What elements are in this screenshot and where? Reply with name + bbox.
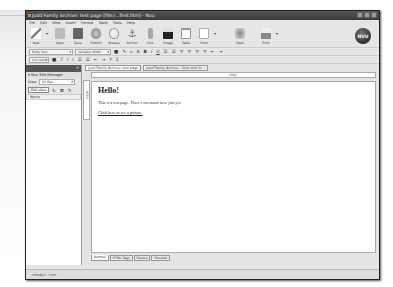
style2-icon[interactable]: I	[71, 57, 74, 62]
browse-button[interactable]: Browse	[106, 26, 122, 47]
style-icon[interactable]: I	[66, 57, 69, 62]
text-color-icon[interactable]: ■	[113, 49, 119, 54]
italic-button[interactable]: I	[150, 49, 153, 54]
anchor-icon: ⚓	[127, 28, 137, 39]
tab-normal[interactable]: Normal	[91, 255, 109, 261]
spell-button[interactable]: Spell	[232, 26, 248, 47]
refresh-icon[interactable]: ↻	[51, 88, 57, 93]
smaller-text-button[interactable]: A	[129, 50, 133, 54]
table-button[interactable]: Table	[178, 26, 194, 47]
close-button[interactable]	[371, 12, 377, 18]
indent-button[interactable]: ⇥	[218, 49, 224, 54]
view-select[interactable]: All files	[39, 79, 75, 85]
image-button[interactable]: Image	[160, 26, 176, 47]
bold-button[interactable]: B	[143, 49, 148, 54]
main-area: ✕ ▾ Nvu Site Manager View: All files Edi…	[26, 65, 379, 265]
format-icon[interactable]: Σ	[115, 57, 120, 62]
maximize-button[interactable]	[364, 12, 370, 18]
list2-icon[interactable]: ☰	[85, 57, 91, 62]
tab-gran[interactable]: Judd Family Archive - Gran and Gr...	[143, 65, 208, 71]
align-center-button[interactable]: ≡	[186, 49, 192, 54]
tab-test-page[interactable]: Judd Family Archive: test page	[85, 65, 141, 71]
open-button[interactable]: Open	[52, 26, 68, 47]
nvu-logo: NVU	[355, 28, 371, 44]
address-field[interactable]: http:	[91, 72, 376, 78]
site-manager-panel: ✕ ▾ Nvu Site Manager View: All files Edi…	[26, 65, 82, 265]
filter-icon[interactable]: Y	[108, 57, 113, 62]
main-toolbar: New ▾ Open Save Publish Browse ⚓Anchor L…	[26, 26, 379, 48]
view-row: View: All files	[26, 78, 81, 86]
format-toolbar-2: (no class) ■ T I I ☰ ☰ ⇤ ⇥ Y Σ	[26, 56, 379, 64]
underline-button[interactable]: U	[155, 49, 160, 54]
justify-button[interactable]: ≡	[202, 49, 208, 54]
body-tag-ruler: BODY	[83, 80, 90, 120]
site-actions-row: Edit sites ↻ ⊠ ✎	[26, 86, 81, 94]
save-icon	[73, 28, 83, 39]
edit-icon[interactable]: ✎	[67, 88, 73, 93]
list-icon[interactable]: ☰	[77, 57, 83, 62]
bullet-list-button[interactable]: ☰	[163, 49, 169, 54]
spell-icon	[235, 28, 245, 39]
link-button[interactable]: Link	[142, 26, 158, 47]
font-select[interactable]: Variable Width	[75, 49, 111, 55]
app-icon	[28, 14, 31, 17]
outdent-button[interactable]: ⇤	[210, 49, 216, 54]
table-icon	[181, 28, 191, 39]
color-icon[interactable]: ■	[51, 57, 57, 62]
format-toolbar-1: Body Text Variable Width ■ ✎ A A B I U ☰…	[26, 48, 379, 56]
document-canvas[interactable]: Hello! This is a test page. There's not …	[91, 81, 376, 253]
class-select[interactable]: (no class)	[29, 57, 49, 63]
minimize-button[interactable]	[357, 12, 363, 18]
print-button[interactable]: Print	[258, 26, 274, 47]
image-icon	[163, 28, 173, 39]
edit-sites-button[interactable]: Edit sites	[28, 87, 49, 93]
form-dropdown-icon[interactable]: ▾	[214, 31, 218, 36]
delete-icon[interactable]: ⊠	[59, 88, 65, 93]
name-column-header[interactable]: Name	[26, 94, 81, 100]
new-dropdown-icon[interactable]: ▾	[46, 31, 50, 36]
indent3-icon[interactable]: ⇥	[101, 57, 107, 62]
form-button[interactable]: Form	[196, 26, 212, 47]
link-icon	[148, 28, 153, 39]
publish-button[interactable]: Publish	[88, 26, 104, 47]
tab-html-tags[interactable]: HTML Tags	[110, 255, 133, 261]
picture-link[interactable]: Click here to see a picture.	[98, 110, 143, 115]
open-icon	[55, 28, 65, 39]
mode-tabs: Normal HTML Tags Source Preview	[91, 255, 170, 261]
page-heading: Hello!	[98, 86, 375, 95]
indent2-icon[interactable]: ⇤	[93, 57, 99, 62]
align-left-button[interactable]: ≡	[179, 49, 185, 54]
browse-magnifier-icon	[109, 28, 119, 39]
new-button[interactable]: New	[28, 26, 44, 47]
editor-pane: Judd Family Archive: test page Judd Fami…	[83, 65, 379, 265]
larger-text-button[interactable]: A	[135, 49, 140, 54]
anchor-button[interactable]: ⚓Anchor	[124, 26, 140, 47]
form-icon	[199, 28, 209, 39]
page-paragraph: This is a test page. There's not much he…	[98, 100, 375, 105]
print-dropdown-icon[interactable]: ▾	[276, 31, 280, 36]
highlight-icon[interactable]: ✎	[121, 49, 127, 54]
window-title: Judd Family Archive: test page [file:/..…	[32, 13, 155, 18]
background-image	[0, 10, 25, 270]
numbered-list-button[interactable]: ☰	[171, 49, 177, 54]
document-tabs: Judd Family Archive: test page Judd Fami…	[83, 65, 379, 71]
paragraph-style-select[interactable]: Body Text	[29, 49, 73, 55]
status-bar: <body> <a>	[26, 269, 379, 279]
underline-toggle-icon[interactable]: T	[59, 57, 64, 62]
align-right-button[interactable]: ≡	[194, 49, 200, 54]
tab-source[interactable]: Source	[134, 255, 151, 261]
new-icon	[31, 28, 41, 39]
publish-globe-icon	[91, 28, 101, 39]
sidebar-header: ✕	[26, 65, 81, 72]
tab-preview[interactable]: Preview	[151, 255, 169, 261]
title-bar: Judd Family Archive: test page [file:/..…	[26, 11, 379, 20]
sidebar-close-icon[interactable]: ✕	[76, 65, 79, 70]
app-window: Judd Family Archive: test page [file:/..…	[25, 10, 380, 280]
save-button[interactable]: Save	[70, 26, 86, 47]
print-icon	[261, 28, 271, 39]
